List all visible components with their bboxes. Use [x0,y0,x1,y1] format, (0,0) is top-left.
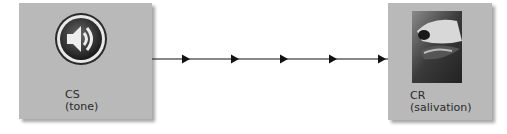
cr-box: CR (salivation) [388,3,492,120]
arrowhead [182,55,190,64]
arrowhead [378,55,386,64]
cr-label-sub: (salivation) [410,102,472,114]
cr-label: CR (salivation) [410,90,472,114]
arrowhead [231,55,239,64]
arrowhead [329,55,337,64]
dog-photo [412,11,462,83]
arrowhead [280,55,288,64]
